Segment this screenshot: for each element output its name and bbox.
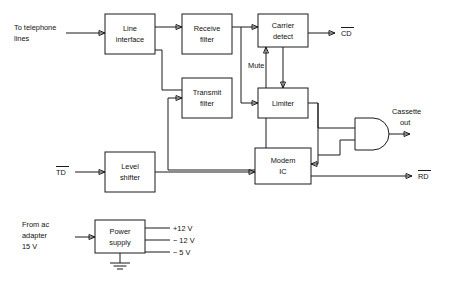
wire-modem-bus-to-and-gate bbox=[318, 140, 340, 155]
block-diagram: Line interface Receive filter Carrier de… bbox=[0, 0, 450, 285]
block-modem-ic-label-2: IC bbox=[279, 167, 287, 176]
label-rail-minus5: − 5 V bbox=[173, 248, 191, 257]
label-rail-plus12: +12 V bbox=[173, 224, 193, 233]
block-limiter-label-1: Limiter bbox=[272, 99, 295, 108]
block-power-supply-label-1: Power bbox=[110, 227, 131, 236]
block-carrier-detect-label-1: Carrier bbox=[272, 21, 295, 30]
block-power-supply-label-2: supply bbox=[109, 238, 131, 247]
label-rail-minus12: − 12 V bbox=[173, 236, 195, 245]
block-transmit-filter-label-1: Transmit bbox=[193, 88, 221, 97]
label-mute: Mute bbox=[248, 61, 264, 70]
block-carrier-detect[interactable] bbox=[258, 14, 308, 47]
block-receive-filter[interactable] bbox=[182, 14, 232, 54]
block-level-shifter-label-2: shifter bbox=[120, 173, 141, 182]
diagram-canvas: Line interface Receive filter Carrier de… bbox=[0, 0, 450, 285]
block-layer: Line interface Receive filter Carrier de… bbox=[95, 14, 389, 253]
block-modem-ic-label-1: Modem bbox=[271, 156, 296, 165]
wire-limiter-to-and-gate bbox=[308, 103, 355, 128]
block-receive-filter-label-1: Receive bbox=[194, 24, 221, 33]
label-to-telephone-lines-2: lines bbox=[14, 34, 30, 43]
block-level-shifter-label-1: Level bbox=[121, 162, 139, 171]
label-td-input: TD bbox=[56, 168, 66, 177]
block-receive-filter-label-2: filter bbox=[200, 35, 215, 44]
label-cassette-out-2: out bbox=[400, 118, 410, 127]
wire-transmit-filter-to-line-interface bbox=[146, 50, 182, 90]
label-cassette-out-1: Cassette bbox=[392, 107, 421, 116]
label-to-telephone-lines-1: To telephone bbox=[14, 23, 56, 32]
label-from-ac-adapter-1: From ac bbox=[22, 220, 49, 229]
block-line-interface-label-2: interface bbox=[116, 35, 144, 44]
block-level-shifter[interactable] bbox=[105, 152, 155, 192]
block-transmit-filter[interactable] bbox=[182, 78, 232, 118]
label-from-ac-adapter-2: adapter bbox=[22, 231, 48, 240]
label-rd-output: RD bbox=[418, 172, 429, 181]
block-carrier-detect-label-2: detect bbox=[273, 32, 293, 41]
block-line-interface-label-1: Line bbox=[123, 24, 137, 33]
block-transmit-filter-label-2: filter bbox=[200, 99, 215, 108]
block-line-interface[interactable] bbox=[105, 14, 155, 54]
block-modem-ic[interactable] bbox=[255, 148, 311, 184]
label-from-ac-adapter-3: 15 V bbox=[22, 242, 37, 251]
and-gate[interactable] bbox=[355, 118, 389, 150]
label-cd-output: CD bbox=[341, 29, 352, 38]
wire-limiter-bus-to-modem-ic bbox=[311, 103, 318, 164]
block-power-supply[interactable] bbox=[95, 220, 145, 253]
